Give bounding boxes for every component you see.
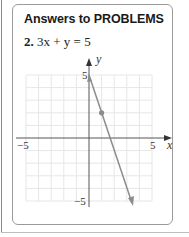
- plotted-point: [99, 110, 104, 115]
- x-axis: [16, 135, 172, 141]
- coordinate-graph: y x −5 5 5 −5: [0, 0, 189, 237]
- y-axis-label: y: [95, 52, 102, 66]
- x-tick-max: 5: [150, 139, 156, 151]
- x-tick-min: −5: [17, 139, 29, 151]
- y-tick-max: 5: [82, 69, 88, 81]
- x-axis-label: x: [166, 138, 173, 152]
- y-tick-min: −5: [74, 195, 86, 207]
